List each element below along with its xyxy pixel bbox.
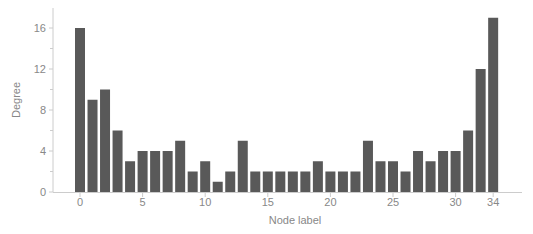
bar-node-26 bbox=[401, 172, 411, 193]
x-tick-label: 30 bbox=[449, 196, 461, 208]
bar-node-6 bbox=[150, 151, 160, 192]
bar-node-32 bbox=[476, 69, 486, 192]
y-tick-label: 0 bbox=[40, 186, 46, 198]
bar-node-2 bbox=[100, 90, 110, 193]
y-tick-label: 8 bbox=[40, 104, 46, 116]
x-tick-label: 25 bbox=[387, 196, 399, 208]
bar-node-16 bbox=[275, 172, 285, 193]
bar-node-17 bbox=[288, 172, 298, 193]
bar-node-10 bbox=[200, 161, 210, 192]
bar-node-1 bbox=[88, 100, 98, 192]
bar-node-8 bbox=[175, 141, 185, 192]
bar-node-33 bbox=[488, 18, 498, 192]
bar-node-21 bbox=[338, 172, 348, 193]
bar-node-12 bbox=[225, 172, 235, 193]
bars-group bbox=[75, 18, 498, 192]
x-tick-label: 10 bbox=[199, 196, 211, 208]
bar-node-5 bbox=[138, 151, 148, 192]
bar-node-19 bbox=[313, 161, 323, 192]
bar-node-31 bbox=[463, 131, 473, 193]
x-axis-label: Node label bbox=[269, 214, 322, 226]
bar-node-24 bbox=[375, 161, 385, 192]
x-tick-label: 5 bbox=[140, 196, 146, 208]
bar-node-28 bbox=[426, 161, 436, 192]
bar-node-4 bbox=[125, 161, 135, 192]
bar-node-11 bbox=[213, 182, 223, 192]
x-tick-label: 20 bbox=[324, 196, 336, 208]
y-tick-label: 12 bbox=[34, 63, 46, 75]
x-tick-label: 15 bbox=[262, 196, 274, 208]
x-tick-label: 0 bbox=[77, 196, 83, 208]
bar-node-7 bbox=[163, 151, 173, 192]
bar-node-20 bbox=[325, 172, 335, 193]
bar-node-13 bbox=[238, 141, 248, 192]
bar-node-30 bbox=[451, 151, 461, 192]
y-tick-label: 4 bbox=[40, 145, 46, 157]
bar-node-23 bbox=[363, 141, 373, 192]
bar-node-15 bbox=[263, 172, 273, 193]
bar-node-18 bbox=[300, 172, 310, 193]
chart-canvas: 0481216 05101520253034 Degree Node label bbox=[0, 0, 533, 234]
bar-node-3 bbox=[113, 131, 123, 193]
bar-node-27 bbox=[413, 151, 423, 192]
y-axis-label: Degree bbox=[10, 82, 22, 118]
x-ticks-group: 05101520253034 bbox=[77, 192, 499, 208]
degree-bar-chart: 0481216 05101520253034 Degree Node label bbox=[0, 0, 533, 234]
x-tick-label: 34 bbox=[487, 196, 499, 208]
y-ticks-group: 0481216 bbox=[34, 22, 53, 198]
bar-node-22 bbox=[350, 172, 360, 193]
bar-node-25 bbox=[388, 161, 398, 192]
bar-node-9 bbox=[188, 172, 198, 193]
y-tick-label: 16 bbox=[34, 22, 46, 34]
bar-node-29 bbox=[438, 151, 448, 192]
bar-node-14 bbox=[250, 172, 260, 193]
bar-node-0 bbox=[75, 28, 85, 192]
